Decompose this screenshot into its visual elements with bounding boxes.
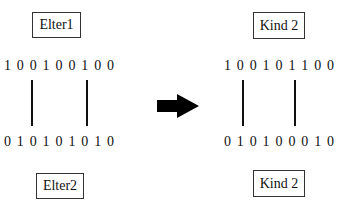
bit: 1 (1, 58, 14, 74)
bit: 0 (324, 134, 337, 150)
bit: 0 (234, 58, 247, 74)
bit: 0 (53, 134, 66, 150)
bit: 1 (260, 134, 273, 150)
parent2-bitstring: 0 1 0 1 0 1 0 1 0 (1, 134, 117, 150)
crossover-line-left-1 (31, 80, 33, 126)
bit: 1 (298, 58, 311, 74)
bit: 1 (40, 134, 53, 150)
bit: 0 (298, 134, 311, 150)
bit: 0 (273, 134, 286, 150)
child-top-bitstring: 1 0 0 1 0 1 1 0 0 (221, 58, 337, 74)
bit: 0 (53, 58, 66, 74)
bit: 1 (260, 58, 273, 74)
bit: 0 (311, 58, 324, 74)
child-bottom-label-box: Kind 2 (253, 170, 305, 197)
bit: 1 (221, 58, 234, 74)
bit: 0 (1, 134, 14, 150)
parent1-bitstring: 1 0 0 1 0 0 1 0 0 (1, 58, 117, 74)
bit: 1 (40, 58, 53, 74)
child-top-label: Kind 2 (260, 18, 299, 34)
bit: 0 (27, 134, 40, 150)
bit: 0 (273, 58, 286, 74)
bit: 0 (324, 58, 337, 74)
child-top-label-box: Kind 2 (253, 12, 305, 39)
bit: 1 (311, 134, 324, 150)
bit: 0 (91, 58, 104, 74)
bit: 1 (91, 134, 104, 150)
crossover-line-right-2 (294, 80, 296, 126)
bit: 1 (78, 58, 91, 74)
crossover-line-right-1 (242, 80, 244, 126)
bit: 0 (104, 58, 117, 74)
bit: 0 (65, 58, 78, 74)
bit: 1 (65, 134, 78, 150)
bit: 0 (14, 58, 27, 74)
bit: 1 (285, 58, 298, 74)
bit: 0 (104, 134, 117, 150)
bit: 0 (27, 58, 40, 74)
parent2-label: Elter2 (43, 178, 77, 194)
bit: 0 (247, 134, 260, 150)
bit: 0 (285, 134, 298, 150)
child-bottom-label: Kind 2 (260, 176, 299, 192)
bit: 0 (247, 58, 260, 74)
child-bottom-bitstring: 0 1 0 1 0 0 0 1 0 (221, 134, 337, 150)
parent1-label-box: Elter1 (32, 12, 81, 38)
right-arrow-icon (155, 93, 201, 119)
parent2-label-box: Elter2 (36, 173, 84, 199)
bit: 0 (221, 134, 234, 150)
bit: 1 (14, 134, 27, 150)
crossover-line-left-2 (86, 80, 88, 126)
bit: 1 (234, 134, 247, 150)
parent1-label: Elter1 (39, 17, 73, 33)
bit: 0 (78, 134, 91, 150)
